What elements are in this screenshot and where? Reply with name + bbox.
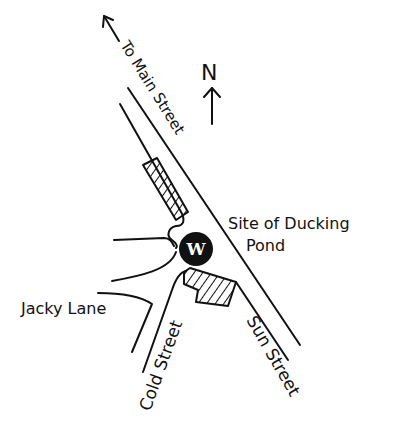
label-site-of-ducking-pond: Site of Ducking [228,214,350,233]
north-arrow-icon [204,88,220,124]
hand-drawn-map: To Main Street N W Site of Ducking Pond … [0,0,398,448]
label-pond: Pond [246,236,285,255]
arrow-to-main-street-icon [103,16,119,41]
north-label: N [201,60,217,85]
label-jacky-lane: Jacky Lane [20,299,106,318]
west-road-upper [114,238,174,246]
west-road-lower [112,252,176,281]
label-sun-street: Sun Street [243,312,305,400]
w-marker-icon: W [179,232,213,266]
svg-text:W: W [185,239,206,259]
building-south [184,268,236,306]
label-cold-street: Cold Street [135,317,186,413]
